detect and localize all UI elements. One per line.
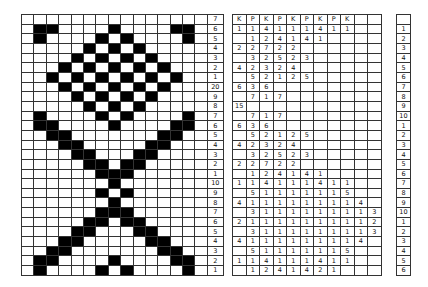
count-cell [354, 188, 368, 198]
count-cell: 1 [273, 237, 287, 247]
chart-cell [83, 198, 95, 208]
count-cell [300, 121, 314, 131]
counts-row: 51111115 [233, 246, 382, 256]
count-cell: 1 [341, 227, 355, 237]
count-cell: 4 [287, 140, 301, 150]
count-cell: 1 [300, 227, 314, 237]
count-cell [327, 34, 341, 44]
chart-row: 6 [22, 121, 224, 131]
chart-cell [83, 130, 95, 140]
count-cell: 1 [314, 188, 328, 198]
chart-cell [59, 72, 71, 82]
chart-cell [183, 121, 195, 131]
count-cell: 1 [341, 24, 355, 34]
chart-row: 3 [22, 246, 224, 256]
count-cell [300, 43, 314, 53]
chart-cell [22, 53, 34, 63]
chart-cell [170, 82, 182, 92]
chart-cell [22, 34, 34, 44]
chart-cell [195, 169, 207, 179]
count-cell: 4 [354, 198, 368, 208]
chart-cell [133, 208, 145, 218]
chart-cell [34, 101, 46, 111]
count-cell: 1 [246, 217, 260, 227]
chart-cell [34, 34, 46, 44]
chart-cell [59, 82, 71, 92]
chart-cell [71, 43, 83, 53]
chart-cell [108, 130, 120, 140]
count-cell [314, 82, 328, 92]
chart-cell [121, 237, 133, 247]
count-cell: 1 [233, 24, 247, 34]
chart-cell [145, 63, 157, 73]
count-cell: 1 [246, 169, 260, 179]
chart-cell [83, 53, 95, 63]
count-cell [327, 101, 341, 111]
chart-cell [183, 179, 195, 189]
chart-cell [46, 15, 58, 25]
count-cell: 7 [273, 92, 287, 102]
chart-cell [96, 150, 108, 160]
chart-cell [133, 246, 145, 256]
counts-row: 21111111112 [233, 217, 382, 227]
chart-row-label: 4 [207, 237, 223, 247]
count-cell: 2 [287, 53, 301, 63]
count-cell [327, 159, 341, 169]
counts-row: 32523 [233, 150, 382, 160]
count-cell: 1 [300, 208, 314, 218]
chart-cell [158, 208, 170, 218]
counts-row: 124141 [233, 34, 382, 44]
chart-row: 5 [22, 34, 224, 44]
chart-row: 8 [22, 101, 224, 111]
chart-cell [96, 121, 108, 131]
count-cell: 1 [273, 188, 287, 198]
count-cell: 5 [300, 72, 314, 82]
chart-cell [71, 111, 83, 121]
count-cell: 1 [341, 237, 355, 247]
count-cell [341, 92, 355, 102]
count-cell: 2 [273, 43, 287, 53]
counts-row: 15 [233, 101, 382, 111]
chart-cell [133, 130, 145, 140]
chart-cell [195, 227, 207, 237]
count-cell: 1 [327, 198, 341, 208]
counts-row: 22722 [233, 159, 382, 169]
chart-cell [46, 92, 58, 102]
chart-cell [34, 43, 46, 53]
chart-cell [59, 198, 71, 208]
chart-cell [145, 111, 157, 121]
chart-cell [108, 256, 120, 266]
count-cell: 1 [260, 227, 274, 237]
count-cell: 1 [327, 24, 341, 34]
row-number: 6 [397, 169, 411, 179]
count-cell [368, 24, 382, 34]
chart-cell [195, 217, 207, 227]
count-cell: 1 [273, 208, 287, 218]
count-cell: 1 [327, 208, 341, 218]
chart-row-label: 4 [207, 140, 223, 150]
chart-cell [71, 169, 83, 179]
chart-cell [121, 15, 133, 25]
count-cell [233, 150, 247, 160]
chart-cell [121, 227, 133, 237]
chart-cell [83, 140, 95, 150]
count-cell [233, 246, 247, 256]
row-number: 4 [397, 150, 411, 160]
chart-cell [121, 217, 133, 227]
chart-cell [158, 217, 170, 227]
count-cell: 2 [246, 43, 260, 53]
count-cell: 1 [260, 188, 274, 198]
count-cell: 1 [246, 256, 260, 266]
chart-cell [145, 179, 157, 189]
chart-cell [170, 198, 182, 208]
chart-cell [59, 111, 71, 121]
count-cell: 2 [368, 217, 382, 227]
count-cell: 3 [246, 150, 260, 160]
counts-row: 52125 [233, 72, 382, 82]
chart-cell [170, 237, 182, 247]
count-cell [354, 43, 368, 53]
chart-cell [145, 159, 157, 169]
chart-cell [34, 111, 46, 121]
count-cell: 4 [260, 179, 274, 189]
chart-cell [22, 82, 34, 92]
